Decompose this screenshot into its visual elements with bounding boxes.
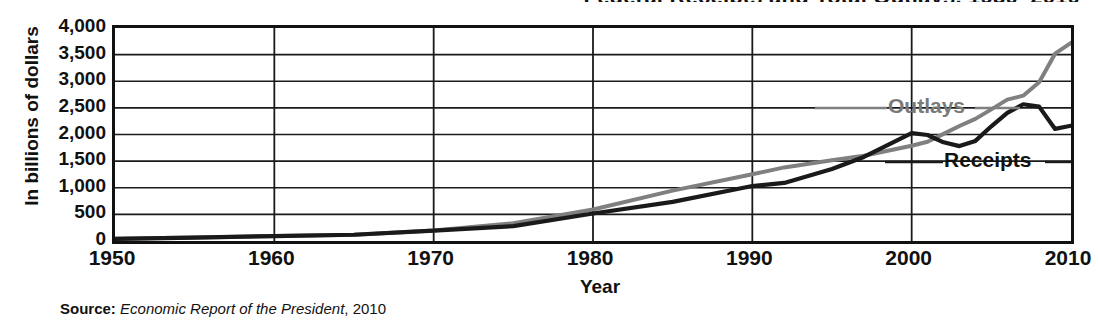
y-tick-label: 1,500 — [28, 149, 106, 168]
y-axis-tick-labels: 4,0003,5003,0002,5002,0001,5001,0005000 — [26, 0, 106, 260]
y-tick-label: 500 — [28, 202, 106, 221]
series-label-receipts: Receipts — [944, 148, 1032, 172]
y-tick-label: 2,000 — [28, 123, 106, 142]
plot-svg — [115, 28, 1071, 241]
x-tick-label: 1970 — [376, 246, 486, 270]
source-prefix: Source: — [60, 300, 116, 317]
series-label-outlays: Outlays — [888, 94, 965, 118]
x-tick-label: 1950 — [57, 246, 167, 270]
x-tick-label: 2010 — [1013, 246, 1100, 270]
plot-area — [112, 25, 1074, 244]
x-axis-title: Year — [520, 276, 680, 298]
y-tick-label: 3,000 — [28, 69, 106, 88]
x-tick-label: 1960 — [216, 246, 326, 270]
x-tick-label: 1990 — [694, 246, 804, 270]
y-tick-label: 4,000 — [28, 16, 106, 35]
x-axis-tick-labels: 1950196019701980199020002010 — [0, 246, 1100, 276]
source-work-title: Economic Report of the President — [120, 300, 344, 317]
y-tick-label: 2,500 — [28, 96, 106, 115]
y-tick-label: 1,000 — [28, 176, 106, 195]
y-tick-label: 3,500 — [28, 43, 106, 62]
chart-title: Federal Receipts and Total Outlays, 1950… — [300, 0, 1080, 2]
figure-federal-receipts-outlays: Federal Receipts and Total Outlays, 1950… — [0, 0, 1100, 328]
x-tick-label: 1980 — [535, 246, 645, 270]
source-note: Source: Economic Report of the President… — [60, 300, 386, 317]
x-tick-label: 2000 — [854, 246, 964, 270]
source-year: , 2010 — [344, 300, 386, 317]
